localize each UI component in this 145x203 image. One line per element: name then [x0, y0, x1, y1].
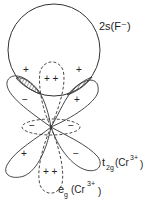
- svg-text:2g: 2g: [106, 164, 114, 172]
- label-t2g: t 2g (Cr 3+ ): [102, 154, 143, 172]
- svg-text:(Cr: (Cr: [115, 157, 130, 168]
- svg-text:3+: 3+: [87, 180, 95, 187]
- sign-eg-top: + +: [44, 73, 59, 84]
- svg-text:t: t: [102, 156, 105, 168]
- sign-t2g-upper-right: +: [74, 94, 80, 105]
- svg-text:): ): [98, 186, 101, 197]
- svg-text:(Cr: (Cr: [71, 184, 86, 195]
- sign-eg-ring-left: −: [29, 120, 35, 131]
- label-fluoride-2s: 2s(F⁻): [99, 20, 131, 32]
- orbital-overlap-diagram: + + + + − + − − + − + + 2s(F⁻) t 2g (Cr …: [0, 0, 145, 203]
- svg-text:): ): [140, 159, 143, 170]
- t2g-orbital: [6, 76, 101, 177]
- sign-eg-bottom: + +: [43, 166, 58, 177]
- sign-t2g-lower-right: −: [73, 148, 79, 159]
- sign-eg-ring-right: −: [68, 120, 74, 131]
- overlap-right-hatched: [67, 77, 92, 95]
- sign-t2g-upper-left: −: [22, 94, 28, 105]
- sign-t2g-lower-left: +: [21, 148, 27, 159]
- svg-text:3+: 3+: [130, 154, 138, 161]
- svg-text:g: g: [64, 191, 68, 199]
- sign-circle-left: +: [23, 64, 29, 75]
- label-eg: e g (Cr 3+ ): [58, 180, 101, 199]
- sign-circle-right: +: [76, 64, 82, 75]
